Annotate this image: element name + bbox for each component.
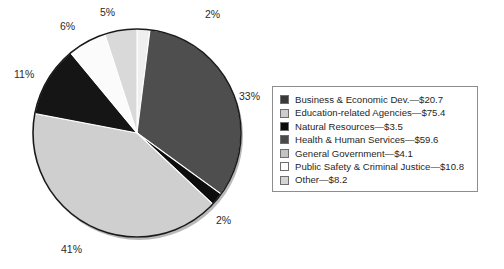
pie-chart-area: 2%33%2%41%11%6%5% [0,0,268,269]
legend-item: General Government—$4.1 [280,147,477,160]
pie-slices [33,29,241,237]
legend-swatch-icon [280,162,289,171]
legend-item: Natural Resources—$3.5 [280,120,477,133]
pie-slice-percent-label: 2% [216,214,231,226]
pie-chart-figure: 2%33%2%41%11%6%5% Business & Economic De… [0,0,504,269]
pie-slice-percent-label: 33% [239,90,260,102]
pie-slice-percent-label: 11% [14,68,34,80]
legend-item-label: Health & Human Services—$59.6 [295,133,438,146]
legend-swatch-icon [280,109,289,118]
legend-swatch-icon [280,176,289,185]
pie-slice-percent-label: 41% [61,243,82,255]
legend-rows: Business & Economic Dev.—$20.7Education-… [280,93,477,187]
legend-item-label: General Government—$4.1 [295,147,413,160]
legend-item: Public Safety & Criminal Justice—$10.8 [280,160,477,173]
legend-item: Business & Economic Dev.—$20.7 [280,93,477,106]
legend-item: Other—$8.2 [280,173,477,186]
pie-slice-percent-label: 2% [205,8,220,20]
pie-svg [0,0,268,269]
legend-item: Education-related Agencies—$75.4 [280,106,477,119]
legend-item-label: Public Safety & Criminal Justice—$10.8 [295,160,464,173]
legend-item: Health & Human Services—$59.6 [280,133,477,146]
pie-slice-percent-label: 5% [100,6,115,18]
legend-item-label: Business & Economic Dev.—$20.7 [295,93,443,106]
legend-swatch-icon [280,149,289,158]
legend-swatch-icon [280,135,289,144]
legend-swatch-icon [280,122,289,131]
pie-slice-percent-label: 6% [60,20,75,32]
legend-item-label: Education-related Agencies—$75.4 [295,106,445,119]
chart-legend: Business & Economic Dev.—$20.7Education-… [272,86,478,192]
legend-item-label: Other—$8.2 [295,173,347,186]
legend-item-label: Natural Resources—$3.5 [295,120,403,133]
legend-swatch-icon [280,95,289,104]
